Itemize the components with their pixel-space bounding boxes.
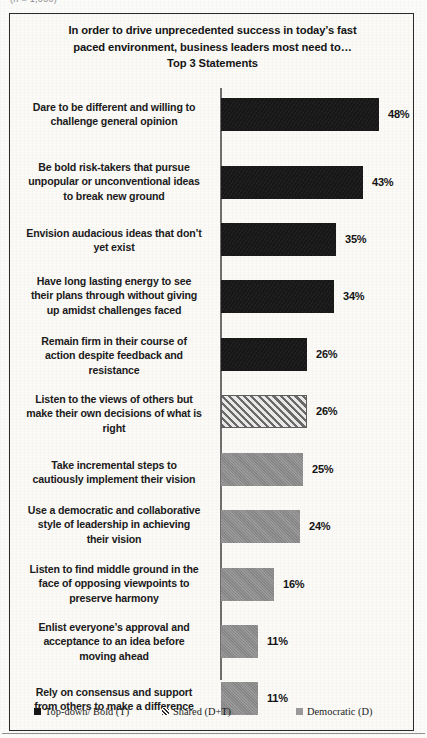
bar-category-label-line: Remain firm in their course of: [15, 334, 213, 348]
bar-category-label-line: Listen to find middle ground in the: [15, 562, 213, 576]
bar-category-label-line: to break new ground: [15, 189, 213, 203]
bar-category-label: Dare to be different and willing tochall…: [15, 100, 213, 129]
bar-democratic: [221, 568, 274, 601]
bar-topdown: [221, 280, 334, 313]
chart-title-line-2: paced environment, business leaders most…: [24, 39, 401, 56]
bar-value-label: 35%: [345, 233, 366, 245]
bar-chart-plot-area: Dare to be different and willing tochall…: [10, 88, 413, 683]
bar-category-label-line: their vision: [15, 532, 213, 546]
bar-category-label-line: challenge general opinion: [15, 114, 213, 128]
bar-category-label: Remain firm in their course ofaction des…: [15, 334, 213, 377]
bar-category-label: Have long lasting energy to seetheir pla…: [15, 274, 213, 317]
bar-value-label: 26%: [316, 348, 337, 360]
bar-category-label-line: acceptance to an idea before: [15, 634, 213, 648]
bar-category-label-line: Take incremental steps to: [15, 458, 213, 472]
bar-topdown: [221, 98, 379, 131]
bar-value-label: 16%: [283, 578, 304, 590]
page-bottom-rule: [2, 733, 425, 734]
bar-category-label-line: Have long lasting energy to see: [15, 274, 213, 288]
scanned-chart-page: (n = 1,000) In order to drive unpreceden…: [0, 0, 427, 738]
bar-category-label-line: Use a democratic and collaborative: [15, 503, 213, 517]
bar-value-label: 34%: [343, 290, 364, 302]
bar-category-label-line: unpopular or unconventional ideas: [15, 174, 213, 188]
bar-value-label: 11%: [267, 635, 288, 647]
bar-category-label-line: Enlist everyone’s approval and: [15, 620, 213, 634]
bar-value-label: 43%: [372, 176, 393, 188]
bar-category-label-line: preserve harmony: [15, 591, 213, 605]
bar-category-label-line: resistance: [15, 363, 213, 377]
bar-category-label-line: Dare to be different and willing to: [15, 100, 213, 114]
chart-title: In order to drive unprecedented success …: [24, 22, 401, 72]
bar-topdown: [221, 223, 336, 256]
chart-frame: In order to drive unprecedented success …: [9, 13, 414, 731]
bar-category-label-line: face of opposing viewpoints to: [15, 576, 213, 590]
bar-category-label-line: right: [15, 421, 213, 435]
legend-item[interactable]: Democratic (D): [296, 706, 372, 717]
bar-category-label: Envision audacious ideas that don’tyet e…: [15, 226, 213, 255]
bar-category-label-line: yet exist: [15, 240, 213, 254]
bar-category-label-line: make their own decisions of what is: [15, 406, 213, 420]
bar-category-label-line: Envision audacious ideas that don’t: [15, 226, 213, 240]
bar-category-label: Be bold risk-takers that pursueunpopular…: [15, 160, 213, 203]
bar-category-label: Enlist everyone’s approval andacceptance…: [15, 620, 213, 663]
clipped-header-text: (n = 1,000): [10, 0, 57, 4]
bar-topdown: [221, 166, 363, 199]
legend-item-label: Shared (D+T): [173, 706, 231, 717]
legend-item-label: Democratic (D): [307, 706, 372, 717]
bar-democratic: [221, 625, 258, 658]
chart-title-line-3: Top 3 Statements: [24, 55, 401, 72]
legend-item[interactable]: Top-down/ Bold (T): [34, 706, 129, 717]
bar-category-label-line: Be bold risk-takers that pursue: [15, 160, 213, 174]
bar-category-label-line: their plans through without giving: [15, 288, 213, 302]
bar-category-label: Listen to the views of others butmake th…: [15, 392, 213, 435]
legend-item[interactable]: Shared (D+T): [162, 706, 231, 717]
bar-category-label-line: Listen to the views of others but: [15, 392, 213, 406]
bar-category-label-line: up amidst challenges faced: [15, 303, 213, 317]
bar-topdown: [221, 338, 307, 371]
chart-legend: Top-down/ Bold (T)Shared (D+T)Democratic…: [10, 700, 413, 726]
bar-category-label-line: cautiously implement their vision: [15, 472, 213, 486]
bar-value-label: 25%: [312, 463, 333, 475]
bar-shared: [221, 395, 307, 428]
chart-title-line-1: In order to drive unprecedented success …: [24, 22, 401, 39]
bar-category-label-line: action despite feedback and: [15, 348, 213, 362]
bar-value-label: 26%: [316, 405, 337, 417]
gray-square-icon: [296, 708, 303, 715]
bar-democratic: [221, 510, 300, 543]
hatched-square-icon: [162, 708, 169, 715]
legend-item-label: Top-down/ Bold (T): [45, 706, 129, 717]
bar-category-label-line: Rely on consensus and support: [15, 685, 213, 699]
bar-democratic: [221, 453, 303, 486]
bar-category-label-line: style of leadership in achieving: [15, 517, 213, 531]
bar-category-label: Listen to find middle ground in theface …: [15, 562, 213, 605]
bar-value-label: 24%: [309, 520, 330, 532]
bar-category-label-line: moving ahead: [15, 649, 213, 663]
solid-black-square-icon: [34, 708, 41, 715]
chart-inner: In order to drive unprecedented success …: [10, 14, 413, 730]
bar-category-label: Take incremental steps tocautiously impl…: [15, 458, 213, 487]
bar-value-label: 48%: [388, 108, 409, 120]
bar-category-label: Use a democratic and collaborativestyle …: [15, 503, 213, 546]
